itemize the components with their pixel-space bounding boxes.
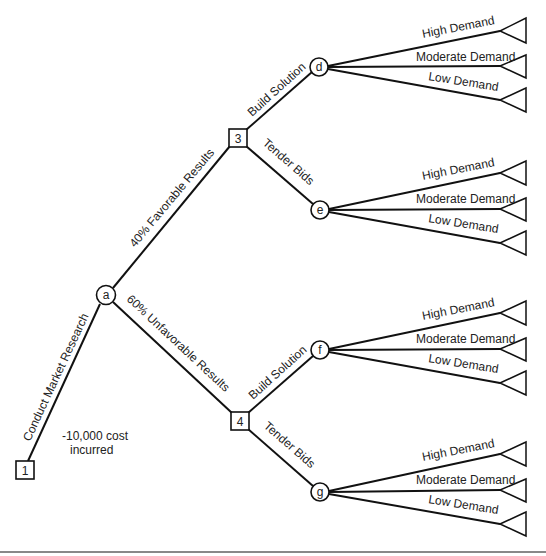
label-moderate-demand: Moderate Demand: [416, 332, 515, 346]
terminal-triangle: [500, 512, 526, 536]
svg-text:4: 4: [237, 415, 244, 429]
label-tender-bids-3: Tender Bids: [260, 136, 317, 188]
outcomes-d: High Demand Moderate Demand Low Demand: [328, 13, 526, 112]
decision-node-3: 3: [229, 129, 247, 147]
outcomes-f: High Demand Moderate Demand Low Demand: [329, 295, 526, 395]
svg-text:1: 1: [22, 464, 29, 478]
decision-node-4: 4: [231, 412, 249, 430]
terminal-triangle: [500, 161, 526, 185]
label-tender-bids-4: Tender Bids: [261, 419, 318, 471]
svg-text:e: e: [317, 203, 324, 217]
label-build-solution-4: Build Solution: [246, 343, 310, 403]
label-high-demand: High Demand: [421, 13, 496, 41]
svg-text:g: g: [317, 485, 324, 499]
decision-tree-diagram: High Demand Moderate Demand Low Demand H…: [0, 0, 546, 556]
label-high-demand: High Demand: [421, 295, 496, 323]
chance-node-f: f: [311, 341, 329, 359]
cost-annotation-line1: -10,000 cost: [62, 429, 129, 443]
decision-node-1: 1: [16, 461, 34, 479]
outcomes-e: High Demand Moderate Demand Low Demand: [329, 155, 526, 255]
label-unfavorable-results: 60% Unfavorable Results: [124, 292, 233, 395]
label-favorable-results: 40% Favorable Results: [127, 146, 217, 250]
terminal-triangle: [500, 18, 526, 43]
chance-node-d: d: [310, 58, 328, 76]
label-low-demand: Low Demand: [428, 69, 500, 94]
cost-annotation-line2: incurred: [70, 443, 113, 457]
terminal-triangle: [500, 371, 526, 395]
label-high-demand: High Demand: [421, 436, 496, 464]
label-conduct-market-research: Conduct Market Research: [20, 311, 92, 443]
label-moderate-demand: Moderate Demand: [416, 473, 515, 487]
edge-a-4: [113, 302, 232, 413]
label-high-demand: High Demand: [421, 155, 496, 183]
chance-node-g: g: [311, 483, 329, 501]
terminal-triangle: [500, 442, 526, 466]
terminal-triangle: [500, 301, 526, 325]
terminal-triangle: [500, 231, 526, 255]
outcomes-g: High Demand Moderate Demand Low Demand: [329, 436, 526, 536]
label-build-solution-3: Build Solution: [245, 60, 309, 120]
svg-text:3: 3: [235, 132, 242, 146]
label-moderate-demand: Moderate Demand: [416, 192, 515, 206]
label-moderate-demand: Moderate Demand: [416, 50, 515, 64]
svg-text:a: a: [103, 288, 110, 302]
chance-node-a: a: [97, 286, 116, 305]
terminal-triangle: [500, 88, 526, 112]
edge-a-3: [113, 146, 230, 288]
chance-node-e: e: [311, 201, 329, 219]
svg-text:d: d: [316, 60, 323, 74]
